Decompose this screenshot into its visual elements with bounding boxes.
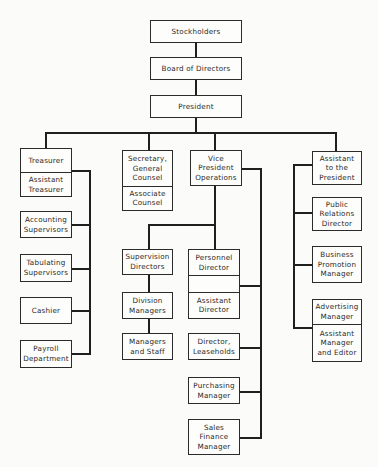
connector-accounting bbox=[71, 224, 91, 226]
box-stockholders: Stockholders bbox=[150, 20, 242, 43]
box-sales-finance-manager: Sales Finance Manager bbox=[188, 419, 240, 455]
label-division-managers: Division Managers bbox=[123, 293, 172, 318]
box-advertising-manager: Advertising Manager Assistant Manager an… bbox=[312, 299, 362, 362]
box-vp-operations: Vice President Operations bbox=[190, 150, 242, 186]
connector-div-staff bbox=[148, 319, 150, 333]
box-president: President bbox=[150, 95, 242, 118]
box-business-promotion-manager: Business Promotion Manager bbox=[312, 246, 362, 283]
label-assistant-to-president: Assistant to the President bbox=[313, 152, 361, 184]
connector-sup-div bbox=[148, 275, 150, 292]
connector-secretary-drop bbox=[148, 132, 150, 150]
connector-asst-drop bbox=[335, 132, 337, 151]
connector-asst-spine-top bbox=[293, 164, 313, 166]
box-purchasing-manager: Purchasing Manager bbox=[188, 377, 240, 404]
connector-tabulating bbox=[71, 268, 91, 270]
box-assistant-to-president: Assistant to the President bbox=[312, 151, 362, 185]
label-sales-finance: Sales Finance Manager bbox=[189, 420, 239, 454]
connector-sales-finance bbox=[240, 437, 262, 439]
label-personnel-blank bbox=[189, 275, 239, 292]
box-managers-and-staff: Managers and Staff bbox=[122, 333, 173, 360]
box-supervision-directors: Supervision Directors bbox=[122, 249, 173, 275]
connector-personnel bbox=[240, 285, 262, 287]
connector-public-relations bbox=[293, 212, 313, 214]
box-payroll-department: Payroll Department bbox=[20, 340, 72, 368]
connector-vp-spine-top bbox=[242, 168, 262, 170]
connector-supervision-bar bbox=[148, 224, 216, 226]
label-business-promotion: Business Promotion Manager bbox=[313, 247, 361, 282]
connector-board-president bbox=[195, 80, 197, 95]
label-tabulating: Tabulating Supervisors bbox=[21, 255, 71, 281]
label-accounting: Accounting Supervisors bbox=[21, 212, 71, 237]
connector-treasurer-spine bbox=[89, 170, 91, 355]
label-managers-staff: Managers and Staff bbox=[123, 334, 172, 359]
box-personnel-director: Personnel Director Assistant Director bbox=[188, 249, 240, 319]
connector-cashier bbox=[71, 310, 91, 312]
label-leaseholds: Director, Leaseholds bbox=[189, 334, 239, 359]
connector-advertising bbox=[293, 327, 313, 329]
box-tabulating-supervisors: Tabulating Supervisors bbox=[20, 254, 72, 282]
label-cashier: Cashier bbox=[21, 298, 71, 323]
label-assistant-director: Assistant Director bbox=[189, 292, 239, 318]
connector-purchasing bbox=[240, 391, 262, 393]
label-advertising-manager: Advertising Manager bbox=[313, 300, 361, 324]
box-treasurer: Treasurer Assistant Treasurer bbox=[20, 148, 72, 197]
box-accounting-supervisors: Accounting Supervisors bbox=[20, 211, 72, 238]
connector-treasurer-drop bbox=[45, 132, 47, 148]
label-treasurer: Treasurer bbox=[21, 149, 71, 172]
label-assistant-manager-editor: Assistant Manager and Editor bbox=[313, 324, 361, 361]
label-public-relations: Public Relations Director bbox=[313, 198, 361, 230]
connector-personnel-drop bbox=[214, 224, 216, 249]
label-board: Board of Directors bbox=[151, 58, 241, 79]
label-vp-operations: Vice President Operations bbox=[191, 151, 241, 185]
label-assistant-treasurer: Assistant Treasurer bbox=[21, 172, 71, 196]
label-supervision-directors: Supervision Directors bbox=[123, 250, 172, 274]
connector-asst-spine bbox=[293, 164, 295, 329]
connector-payroll bbox=[71, 353, 91, 355]
connector-treasurer-spine-top bbox=[71, 170, 91, 172]
label-payroll: Payroll Department bbox=[21, 341, 71, 367]
label-secretary: Secretary, General Counsel bbox=[123, 151, 172, 186]
connector-vp-drop bbox=[214, 132, 216, 150]
connector-stock-board bbox=[195, 43, 197, 57]
box-division-managers: Division Managers bbox=[122, 292, 173, 319]
label-personnel-director: Personnel Director bbox=[189, 250, 239, 275]
connector-main-bar bbox=[45, 132, 337, 134]
label-president: President bbox=[151, 96, 241, 117]
connector-business-promotion bbox=[293, 264, 313, 266]
connector-leaseholds bbox=[240, 347, 262, 349]
connector-supervision-drop bbox=[148, 224, 150, 249]
box-public-relations-director: Public Relations Director bbox=[312, 197, 362, 231]
label-stockholders: Stockholders bbox=[151, 21, 241, 42]
label-purchasing: Purchasing Manager bbox=[189, 378, 239, 403]
connector-vp-spine bbox=[260, 168, 262, 439]
box-secretary-general-counsel: Secretary, General Counsel Associate Cou… bbox=[122, 150, 173, 211]
label-associate-counsel: Associate Counsel bbox=[123, 186, 172, 210]
box-board-of-directors: Board of Directors bbox=[150, 57, 242, 80]
box-director-leaseholds: Director, Leaseholds bbox=[188, 333, 240, 360]
box-cashier: Cashier bbox=[20, 297, 72, 324]
connector-vp-down bbox=[214, 186, 216, 226]
